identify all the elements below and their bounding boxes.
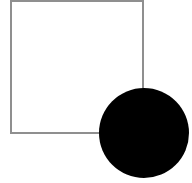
shapes-svg bbox=[0, 0, 192, 183]
figure-canvas bbox=[0, 0, 192, 183]
black-circle-shape bbox=[99, 88, 189, 178]
